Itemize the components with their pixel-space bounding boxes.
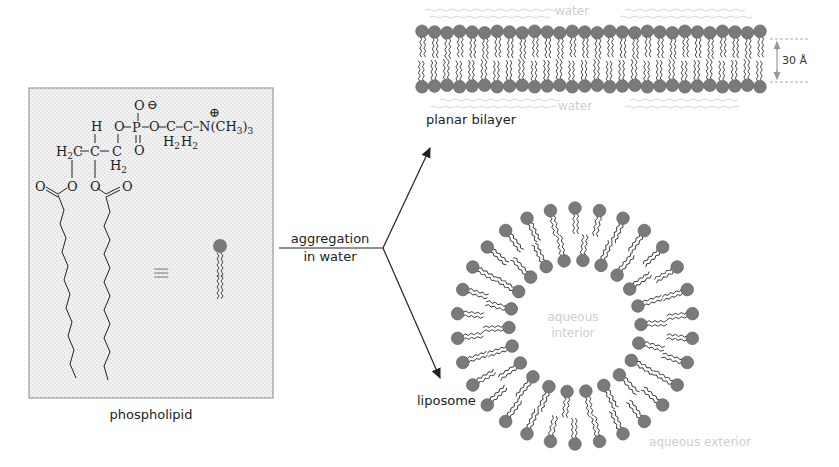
lipid-molecule: [483, 321, 516, 334]
lipid-molecule: [576, 234, 592, 268]
lipid-molecule: [428, 60, 441, 92]
lipid-molecule: [529, 240, 554, 275]
lipid-molecule: [610, 366, 641, 398]
lipid-molecule: [511, 368, 541, 401]
lipid-molecule: [478, 238, 510, 269]
lipid-molecule: [639, 238, 671, 269]
lipid-molecule: [553, 59, 566, 91]
lipid-molecule: [629, 27, 642, 59]
lipid-molecule: [679, 61, 692, 93]
ester-oxygen-2: O: [90, 179, 101, 194]
lipid-molecule: [491, 61, 504, 93]
atom-o-ester: O: [114, 119, 125, 134]
lipid-molecule: [503, 26, 516, 58]
atom-c-1: C: [166, 119, 176, 134]
lipid-molecule: [466, 60, 479, 92]
lipid-molecule: [453, 25, 466, 57]
ester-oxygen-1: O: [67, 179, 78, 194]
lipid-molecule: [478, 27, 491, 59]
lipid-molecule: [654, 60, 667, 92]
lipid-molecule: [666, 59, 679, 91]
aggregation-arrows: aggregation in water: [279, 148, 440, 378]
lipid-molecule: [741, 59, 754, 91]
lipid-molecule: [485, 338, 520, 360]
trimethylammonium-group: N(CH3)3: [199, 119, 254, 136]
lipid-molecule: [679, 25, 692, 57]
atom-h: H: [91, 119, 102, 134]
lipid-molecule: [666, 27, 679, 59]
lipid-molecule: [493, 273, 527, 301]
lipid-molecule: [554, 234, 572, 268]
lipid-molecule: [578, 60, 591, 92]
phospholipid-aggregation-diagram: O ⊖ ⊕ H O P O C C N(CH3)3 O H2 H2: [0, 0, 839, 467]
lipid-molecule: [491, 25, 504, 57]
lipid-molecule: [607, 210, 632, 245]
lipid-molecule: [533, 378, 557, 413]
arrow-to-bilayer: [383, 148, 430, 248]
lipid-molecule: [661, 348, 696, 370]
liposome-caption: liposome: [417, 393, 476, 408]
lipid-molecule: [453, 61, 466, 93]
lipid-molecule: [741, 27, 754, 59]
phosphate-oxygen-top: O: [134, 98, 145, 113]
arrow-to-liposome: [383, 248, 440, 378]
lipid-molecule: [641, 61, 654, 93]
lipid-molecule: [464, 367, 498, 394]
lipid-molecule: [631, 335, 665, 356]
lipid-molecule: [588, 415, 607, 449]
lipid-molecule: [603, 61, 616, 93]
lipid-molecule: [607, 407, 632, 442]
lipid-molecule: [635, 318, 668, 331]
lipid-molecule: [543, 203, 562, 237]
lipid-molecule: [528, 61, 541, 93]
aqueous-interior-label-line2: interior: [551, 326, 595, 340]
phospholipid-caption: phospholipid: [109, 407, 192, 422]
glycerol-ch-center: C: [90, 144, 100, 159]
atom-phosphorus: P: [132, 120, 141, 135]
lipid-molecule: [593, 239, 617, 274]
liposome: aqueous interior aqueous exterior liposo…: [417, 202, 751, 451]
lipid-molecule: [652, 258, 686, 285]
lipid-molecule: [497, 222, 526, 256]
lipid-molecule: [729, 60, 742, 92]
phospholipid-panel: O ⊖ ⊕ H O P O C C N(CH3)3 O H2 H2: [29, 88, 273, 422]
lipid-molecule: [621, 269, 655, 298]
lipid-molecule: [666, 307, 699, 323]
bilayer-lipids: [416, 25, 767, 93]
lipid-molecule: [754, 61, 767, 93]
lipid-molecule: [519, 407, 544, 442]
lipid-molecule: [485, 296, 519, 317]
lipid-molecule: [666, 329, 699, 345]
lipid-molecule: [704, 59, 717, 91]
lipid-molecule: [553, 27, 566, 59]
atom-c-2: C: [183, 119, 193, 134]
lipid-molecule: [624, 397, 653, 431]
lipid-molecule: [569, 418, 582, 450]
lipid-molecule: [416, 25, 429, 57]
lipid-molecule: [428, 26, 441, 58]
lipid-molecule: [704, 27, 717, 59]
aqueous-exterior-label: aqueous exterior: [649, 435, 751, 449]
lipid-molecule: [579, 384, 597, 418]
lipid-molecule: [455, 348, 490, 370]
lipid-molecule: [464, 258, 498, 285]
lipid-molecule: [588, 203, 607, 237]
lipid-molecule: [541, 60, 554, 92]
lipid-molecule: [595, 377, 620, 412]
lipid-molecule: [478, 59, 491, 91]
lipid-molecule: [566, 25, 579, 57]
lipid-molecule: [509, 254, 540, 286]
lipid-molecule: [578, 26, 591, 58]
lipid-molecule: [629, 59, 642, 91]
lipid-molecule: [716, 61, 729, 93]
lipid-molecule: [624, 222, 653, 256]
lipid-molecule: [641, 25, 654, 57]
lipid-molecule: [616, 26, 629, 58]
lipid-molecule: [729, 26, 742, 58]
lipid-molecule: [716, 25, 729, 57]
lipid-molecule: [455, 282, 490, 304]
aggregation-label-line2: in water: [303, 249, 357, 264]
lipid-molecule: [441, 27, 454, 59]
lipid-molecule: [543, 415, 562, 449]
lipid-molecule: [516, 27, 529, 59]
